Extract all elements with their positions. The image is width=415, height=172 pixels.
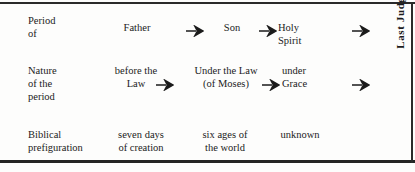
table-row: Biblical prefiguration seven days of cre… [0,128,380,160]
row-label-nature-of-the-period: Nature of the period [28,64,98,103]
table-row: Nature of the period before the Law Unde… [0,64,380,110]
right-arrow-icon [156,79,174,91]
bottom-border-rule [0,160,415,163]
cell-holy-spirit: Holy Spirit [278,21,330,47]
cell-unknown: unknown [268,128,332,141]
right-border-rule [411,2,413,163]
right-arrow-icon [262,79,280,91]
side-label-last-judgment: Last Judgment [389,4,411,100]
cell-under-the-law-of-moses: Under the Law (of Moses) [178,64,274,90]
side-label-text: Last Judgment [395,0,406,49]
diagram-sheet: Last Judgment Period of Father Son Holy … [0,0,415,172]
cell-seven-days-of-creation: seven days of creation [104,128,178,154]
cell-six-ages-of-the-world: six ages of the world [188,128,262,154]
table-row: Period of Father Son Holy Spirit [0,14,380,56]
cell-father: Father [100,21,174,34]
right-arrow-icon [186,25,204,37]
row-label-biblical-prefiguration: Biblical prefiguration [28,128,106,154]
right-arrow-icon [259,25,277,37]
right-arrow-icon [352,25,370,37]
cell-son: Son [206,21,258,34]
right-arrow-icon [352,79,370,91]
row-label-period-of: Period of [28,14,98,40]
top-border-rule [0,2,415,4]
cell-under-grace: under Grace [282,64,334,90]
